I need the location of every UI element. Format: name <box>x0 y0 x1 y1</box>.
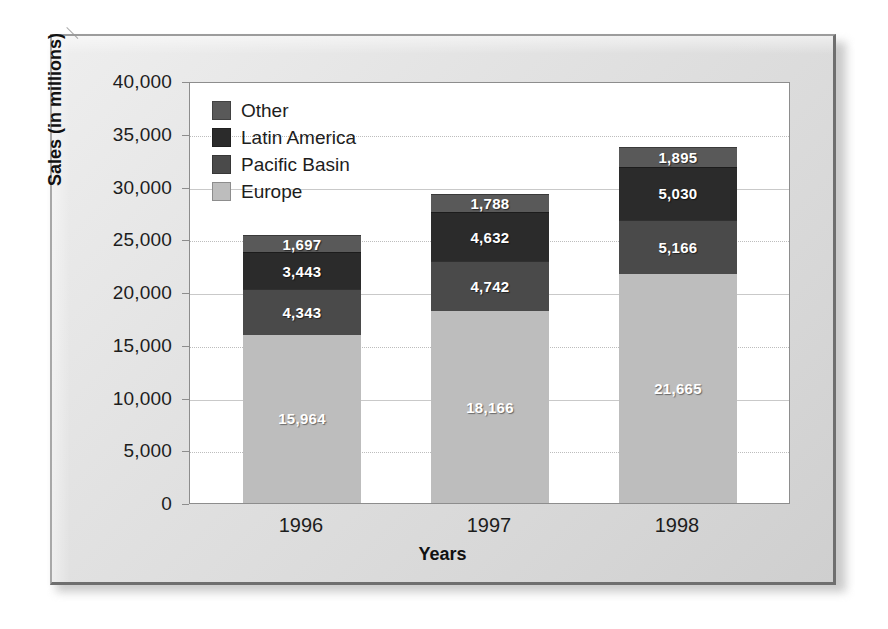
y-axis-tick-label: 40,000 <box>60 71 172 93</box>
bar-stack[interactable]: 15,9644,3433,4431,697 <box>243 235 361 503</box>
y-axis-tick-mark <box>182 293 189 294</box>
legend-swatch-icon <box>212 101 231 120</box>
bar-segment-value-label: 5,030 <box>658 185 697 202</box>
y-axis-tick-label: 0 <box>60 493 172 515</box>
bar-segment[interactable]: 21,665 <box>619 274 737 503</box>
bar-segment[interactable]: 1,895 <box>619 147 737 167</box>
chart-frame: Sales (in millions) 05,00010,00015,00020… <box>50 34 836 585</box>
y-axis-tick-mark <box>182 240 189 241</box>
y-axis-tick-label: 30,000 <box>60 177 172 199</box>
bar-segment-value-label: 1,788 <box>470 195 509 212</box>
x-axis-tick-label: 1997 <box>467 514 512 537</box>
y-axis-tick-label: 25,000 <box>60 229 172 251</box>
bar-segment[interactable]: 1,788 <box>431 194 549 213</box>
bar-segment[interactable]: 5,166 <box>619 220 737 275</box>
chart-screenshot: Sales (in millions) 05,00010,00015,00020… <box>0 0 888 629</box>
bar-stack[interactable]: 21,6655,1665,0301,895 <box>619 147 737 503</box>
y-axis-tick-label: 35,000 <box>60 124 172 146</box>
legend-item-label: Pacific Basin <box>241 154 350 176</box>
legend-swatch-icon <box>212 155 231 174</box>
bar-segment-value-label: 4,632 <box>470 229 509 246</box>
legend-swatch-icon <box>212 182 231 201</box>
bar-segment-value-label: 1,697 <box>282 236 321 253</box>
legend: OtherLatin AmericaPacific BasinEurope <box>212 97 356 205</box>
y-axis-tick-mark <box>182 135 189 136</box>
legend-item[interactable]: Europe <box>212 178 356 205</box>
bar-segment-value-label: 4,343 <box>282 304 321 321</box>
bar-segment[interactable]: 4,742 <box>431 261 549 311</box>
bar-segment[interactable]: 4,343 <box>243 289 361 335</box>
bar-segment-value-label: 4,742 <box>470 278 509 295</box>
bar-segment-value-label: 5,166 <box>658 239 697 256</box>
y-axis-tick-mark <box>182 451 189 452</box>
bar-segment[interactable]: 5,030 <box>619 167 737 220</box>
bar-segment[interactable]: 3,443 <box>243 252 361 288</box>
plot-area: 15,9644,3433,4431,69718,1664,7424,6321,7… <box>189 82 790 504</box>
x-axis-title: Years <box>52 544 833 565</box>
y-axis-tick-label: 15,000 <box>60 335 172 357</box>
x-axis-tick-label: 1996 <box>279 514 324 537</box>
bar-segment[interactable]: 1,697 <box>243 235 361 253</box>
bar-segment-value-label: 15,964 <box>278 410 326 427</box>
legend-item-label: Latin America <box>241 127 356 149</box>
legend-item[interactable]: Pacific Basin <box>212 151 356 178</box>
bar-segment-value-label: 3,443 <box>282 263 321 280</box>
y-axis-tick-label: 20,000 <box>60 282 172 304</box>
x-axis-tick-label: 1998 <box>655 514 700 537</box>
y-axis-tick-mark <box>182 82 189 83</box>
bar-segment[interactable]: 15,964 <box>243 335 361 503</box>
legend-item-label: Europe <box>241 181 302 203</box>
y-axis-tick-label: 10,000 <box>60 388 172 410</box>
bar-segment-value-label: 21,665 <box>654 380 702 397</box>
legend-item[interactable]: Latin America <box>212 124 356 151</box>
y-axis-tick-mark <box>182 346 189 347</box>
bar-segment-value-label: 1,895 <box>658 149 697 166</box>
y-axis-tick-label: 5,000 <box>60 440 172 462</box>
y-axis-title: Sales (in millions) <box>45 33 66 186</box>
y-axis-tick-mark <box>182 504 189 505</box>
y-axis-tick-mark <box>182 399 189 400</box>
legend-item[interactable]: Other <box>212 97 356 124</box>
bar-segment[interactable]: 18,166 <box>431 311 549 503</box>
legend-item-label: Other <box>241 100 289 122</box>
bar-segment[interactable]: 4,632 <box>431 212 549 261</box>
bar-segment-value-label: 18,166 <box>466 399 514 416</box>
y-axis-tick-mark <box>182 188 189 189</box>
legend-swatch-icon <box>212 128 231 147</box>
bar-stack[interactable]: 18,1664,7424,6321,788 <box>431 194 549 503</box>
